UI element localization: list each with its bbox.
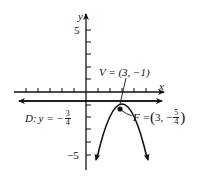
vertex-label: V = (3, −1) [99,67,150,78]
vertex-label-text: V = (3, −1) [99,66,150,78]
focus-prefix: F = [133,112,150,123]
x-axis [14,88,164,92]
y-tick-label-5: 5 [74,25,80,36]
focus-coords: 3, − [155,112,172,123]
focus-label: F = ( 3, − 5 4 ) [133,109,185,126]
x-axis-label: x [159,81,164,92]
focus-fraction: 5 4 [173,109,179,126]
y-axis-label: y [78,11,83,22]
directrix-equation: y = − [39,113,64,124]
directrix-label: D: y = − 3 4 [25,110,72,127]
vertex-leader-line [120,78,126,104]
directrix-fraction: 3 4 [65,110,71,127]
focus-frac-den: 4 [174,118,178,126]
y-tick-label-neg5: −5 [67,150,79,161]
graph-canvas [0,0,203,176]
focus-close-paren: ) [180,110,185,125]
directrix-frac-den: 4 [66,119,70,127]
directrix-prefix: D: [25,113,37,124]
